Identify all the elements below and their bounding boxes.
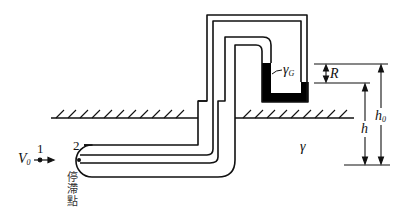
manometer-fluid-label: γG — [283, 63, 294, 78]
gamma-g-leader — [272, 70, 282, 74]
velocity-arrow — [34, 158, 54, 163]
ground-hatching — [56, 110, 347, 118]
stagnation-point-dot — [77, 158, 81, 162]
tube-bottom-outer — [76, 118, 235, 177]
inner-tube-wall — [80, 37, 271, 163]
reading-r-label: R — [330, 67, 339, 81]
height-h-label: h — [361, 121, 368, 137]
stagnation-point-label: 停 滯 點 — [66, 172, 78, 208]
flow-fluid-label: γ — [300, 140, 306, 154]
outer-tube-wall — [84, 15, 307, 145]
pitot-tube-diagram: V0 1 2 停 滯 點 γG γ R h h0 — [0, 0, 407, 218]
height-h0-label: h0 — [375, 108, 386, 125]
point-1-label: 1 — [37, 142, 44, 155]
velocity-label: V0 — [18, 152, 31, 167]
inner-tube-core-wall — [235, 45, 262, 118]
diagram-drawing — [0, 0, 407, 218]
point-2-label: 2 — [73, 139, 80, 152]
